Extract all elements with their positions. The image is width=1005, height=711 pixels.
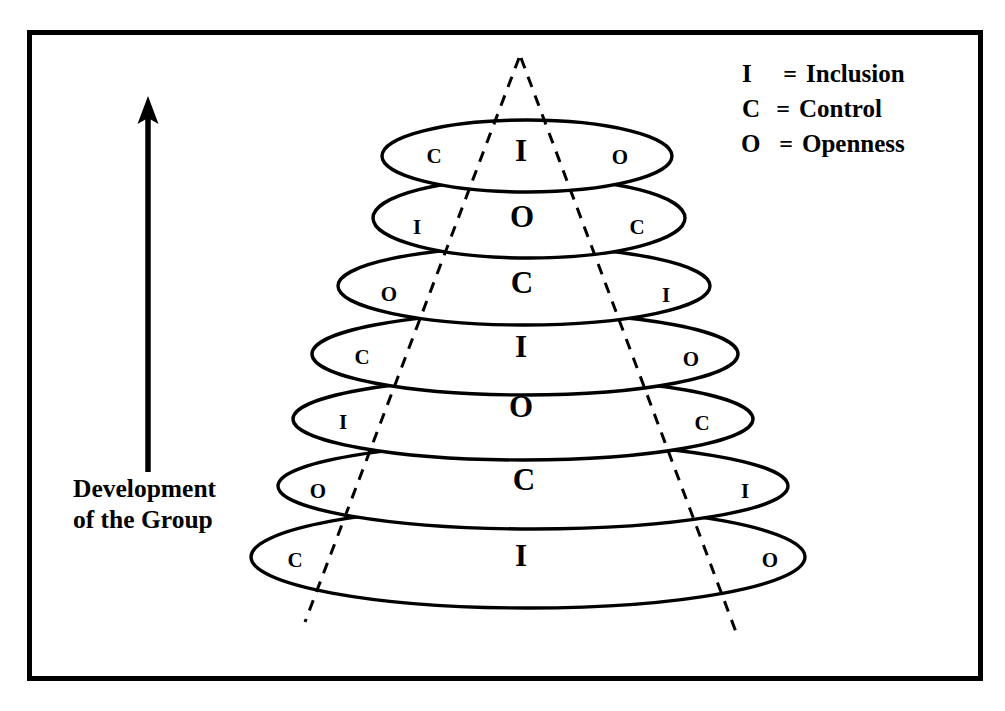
layer-5-left-letter: I — [339, 410, 347, 434]
layer-3-center-letter: C — [511, 265, 533, 300]
layer-1-right-letter: O — [612, 145, 628, 169]
layer-3-right-letter: I — [662, 283, 670, 307]
layer-2-left-letter: I — [413, 215, 421, 239]
legend-key-o: O — [741, 130, 760, 157]
development-arrow — [138, 96, 159, 472]
axis-label: Development of the Group — [73, 474, 217, 534]
layer-2-center-letter: O — [510, 199, 534, 234]
legend-equals-2: = — [779, 131, 793, 157]
legend: I = Inclusion C = Control O = Openness — [741, 60, 905, 157]
axis-label-line2: of the Group — [73, 505, 213, 534]
legend-value-openness: Openness — [802, 130, 905, 157]
layer-6-left-letter: O — [310, 479, 326, 503]
legend-equals-1: = — [776, 96, 790, 122]
layer-4-center-letter: I — [515, 329, 527, 364]
layer-4-left-letter: C — [354, 345, 369, 369]
layer-5-center-letter: O — [509, 389, 533, 424]
layer-5-right-letter: C — [694, 411, 709, 435]
layer-7-left-letter: C — [287, 548, 302, 572]
legend-item-openness: O = Openness — [741, 130, 905, 157]
legend-item-inclusion: I = Inclusion — [742, 60, 905, 87]
layer-stack — [251, 120, 805, 608]
layer-6-center-letter: C — [513, 462, 535, 497]
legend-key-i: I — [742, 60, 752, 87]
legend-item-control: C = Control — [742, 95, 882, 122]
legend-equals-0: = — [783, 61, 797, 87]
layer-3-left-letter: O — [381, 282, 397, 306]
legend-value-control: Control — [799, 95, 882, 122]
layer-4-right-letter: O — [683, 347, 699, 371]
legend-value-inclusion: Inclusion — [806, 60, 905, 87]
layer-1-center-letter: I — [515, 133, 527, 168]
layer-7-right-letter: O — [762, 548, 778, 572]
axis-label-line1: Development — [73, 474, 217, 503]
layer-1-left-letter: C — [426, 144, 441, 168]
layer-2-right-letter: C — [629, 215, 644, 239]
layer-6-right-letter: I — [741, 479, 749, 503]
layer-7-center-letter: I — [515, 538, 527, 573]
diagram-canvas: Development of the Group I = Inclusion C… — [0, 0, 1005, 711]
legend-key-c: C — [742, 95, 760, 122]
firo-group-development-diagram: Development of the Group I = Inclusion C… — [0, 0, 1005, 711]
